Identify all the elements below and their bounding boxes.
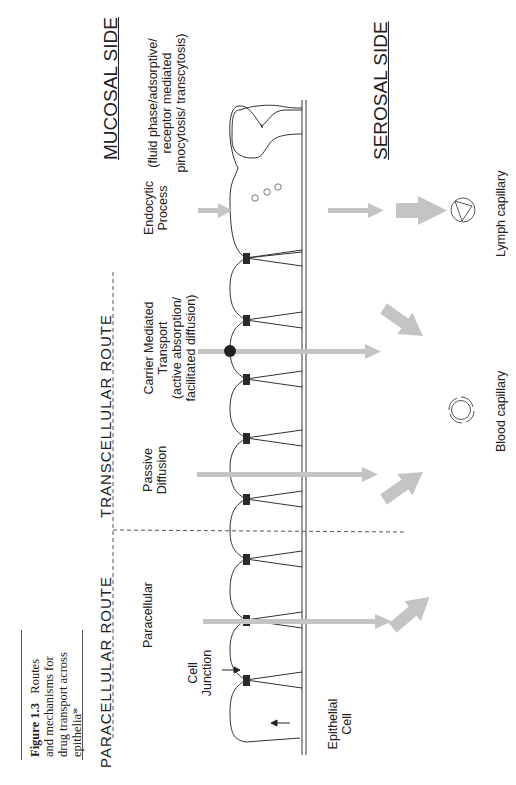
mucosal-side-heading: MUCOSAL SIDE — [100, 17, 122, 160]
epithelial-cells — [230, 105, 302, 742]
lymph-capillary-label: Lymph capillary — [494, 171, 508, 257]
blood-uptake-arrow-lower — [384, 587, 437, 638]
serosal-side-heading: SEROSAL SIDE — [370, 21, 392, 160]
endocytic-exit-arrow — [328, 208, 370, 213]
figure-caption: Figure 1.3 Routes and mechanisms for dru… — [28, 632, 84, 757]
carrier-protein — [224, 345, 236, 357]
transcellular-route-heading: TRANSCELLULAR ROUTE — [97, 314, 114, 518]
figure-number: Figure 1.3 — [28, 703, 42, 757]
passive-diffusion-label: Passive Diffusion — [141, 435, 169, 505]
blood-capillary-icon — [449, 397, 474, 423]
endocytic-detail-label: (fluid phase/adsorptive/ receptor mediat… — [146, 31, 188, 175]
epithelial-cell-label: Epithelial Cell — [326, 694, 354, 754]
blood-uptake-arrow-middle — [376, 461, 430, 510]
blood-uptake-arrow-upper — [376, 298, 430, 347]
endocytic-vesicles — [252, 184, 281, 201]
blood-capillary-label: Blood capillary — [494, 371, 508, 452]
paracellular-route-heading: PARACELLULAR ROUTE — [97, 576, 114, 768]
basement-membrane — [302, 100, 306, 755]
transport-arrows — [197, 196, 447, 638]
caption-rule-left — [21, 630, 22, 760]
paracellular-label: Paracellular — [141, 582, 155, 648]
endocytic-entry-arrow — [198, 208, 220, 213]
endocytic-process-label: Endocytic Process — [142, 173, 170, 243]
paracellular-arrow — [203, 619, 378, 624]
carrier-arrow — [198, 349, 368, 354]
passive-diffusion-arrow — [197, 472, 365, 477]
lymph-capillary-icon — [451, 198, 475, 222]
cell-junction-label: Cell Junction — [186, 643, 214, 703]
lymph-uptake-arrow — [396, 203, 420, 218]
carrier-mediated-label: Carrier Mediated Transport (active absor… — [142, 286, 198, 410]
